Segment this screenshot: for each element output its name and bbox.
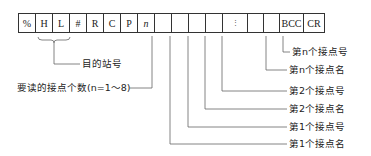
first-contact-number-label: 第1个接点号 bbox=[289, 121, 345, 132]
second-contact-number-label: 第2个接点号 bbox=[289, 85, 345, 96]
nth-contact-number-label: 第n个接点号 bbox=[292, 46, 348, 57]
contact-count-label: 要读的接点个数(n=1～8) bbox=[17, 82, 130, 93]
station-label: 目的站号 bbox=[82, 58, 122, 69]
nth-contact-name-label: 第n个接点名 bbox=[289, 64, 345, 75]
second-contact-name-label: 第2个接点名 bbox=[289, 103, 345, 114]
first-contact-name-label: 第1个接点名 bbox=[289, 138, 345, 149]
connector-lines bbox=[0, 0, 371, 156]
